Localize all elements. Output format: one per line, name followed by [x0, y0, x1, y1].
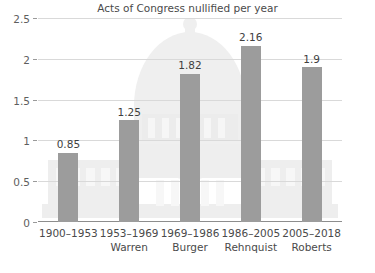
y-tick-label: 2.5: [0, 14, 30, 25]
y-tick-label: 1: [0, 136, 30, 147]
bar-2005-2018[interactable]: [302, 67, 322, 222]
y-tick-mark: [33, 59, 37, 60]
y-tick-mark: [33, 181, 37, 182]
bar-value-label: 0.85: [43, 139, 93, 150]
chart-title: Acts of Congress nullified per year: [0, 3, 375, 14]
y-tick-label: 2: [0, 55, 30, 66]
bar-value-label: 2.16: [226, 32, 276, 43]
y-tick-label: 0.5: [0, 177, 30, 188]
bar-value-label: 1.82: [165, 60, 215, 71]
y-tick-mark: [33, 100, 37, 101]
bar-chart: Acts of Congress nullified per year: [0, 0, 375, 273]
bar-value-label: 1.9: [287, 54, 337, 65]
gridline: [38, 18, 342, 19]
y-tick-mark: [33, 18, 37, 19]
bar-1900-1953[interactable]: [58, 153, 78, 222]
x-category-range: 2005–2018: [272, 226, 352, 240]
y-tick-label: 0: [0, 218, 30, 229]
y-tick-mark: [33, 222, 37, 223]
bar-1953-1969[interactable]: [119, 120, 139, 222]
bar-value-label: 1.25: [104, 107, 154, 118]
plot-area: 0.85 1.25 1.82 2.16 1.9: [38, 18, 342, 222]
x-axis: 1900–1953 1953–1969 Warren 1969–1986 Bur…: [38, 226, 342, 268]
x-category-name: Roberts: [272, 240, 352, 254]
x-category-2005-2018: 2005–2018 Roberts: [272, 226, 352, 254]
y-tick-mark: [33, 140, 37, 141]
bar-1969-1986[interactable]: [180, 74, 200, 223]
y-tick-label: 1.5: [0, 96, 30, 107]
bar-1986-2005[interactable]: [241, 46, 261, 222]
